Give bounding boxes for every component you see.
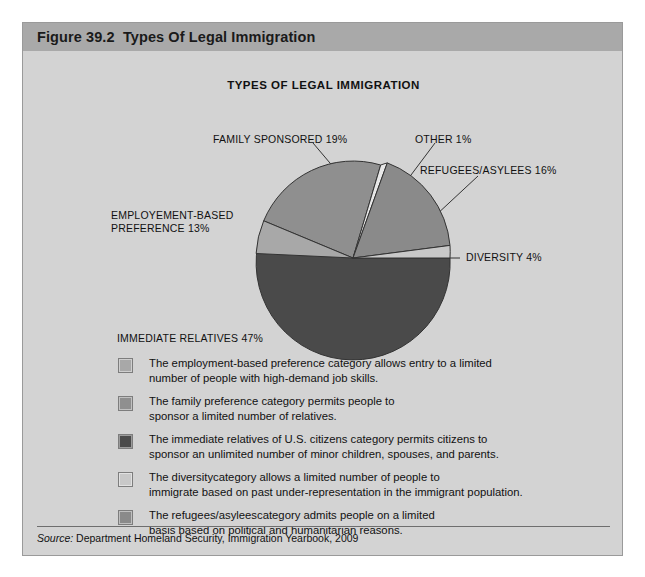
legend-label: The immediate relatives of U.S. citizens… <box>149 432 499 461</box>
callout-family-sponsored: FAMILY SPONSORED 19% <box>213 133 347 146</box>
pie-slices <box>256 161 450 360</box>
callout-diversity: DIVERSITY 4% <box>466 251 542 264</box>
callout-other: OTHER 1% <box>415 133 471 146</box>
figure-panel: Figure 39.2 Types Of Legal Immigration T… <box>22 22 623 556</box>
legend-item: The immediate relatives of U.S. citizens… <box>23 432 624 461</box>
legend-swatch <box>118 472 133 487</box>
source-note: Source: Department Homeland Security, Im… <box>37 532 358 544</box>
source-divider <box>37 526 610 527</box>
callout-employment-based-line2: PREFERENCE 13% <box>111 222 210 235</box>
source-label: Source: <box>37 532 73 544</box>
figure-title: Figure 39.2 Types Of Legal Immigration <box>37 29 315 45</box>
legend-item: The employment-based preference category… <box>23 356 624 385</box>
callout-immediate-relatives: IMMEDIATE RELATIVES 47% <box>117 332 263 345</box>
legend-swatch <box>118 358 133 373</box>
legend-label: The employment-based preference category… <box>149 356 492 385</box>
legend-swatch <box>118 510 133 525</box>
figure-header-bar: Figure 39.2 Types Of Legal Immigration <box>23 23 622 51</box>
callout-refugees-asylees: REFUGEES/ASYLEES 16% <box>420 164 556 177</box>
pie-chart: FAMILY SPONSORED 19% OTHER 1% REFUGEES/A… <box>23 51 624 381</box>
source-text: Department Homeland Security, Immigratio… <box>73 532 358 544</box>
leader-refugees <box>435 176 478 216</box>
legend-swatch <box>118 434 133 449</box>
legend-label: The family preference category permits p… <box>149 394 395 423</box>
legend-swatch <box>118 396 133 411</box>
legend-item: The family preference category permits p… <box>23 394 624 423</box>
legend: The employment-based preference category… <box>23 356 624 546</box>
callout-employment-based-line1: EMPLOYEMENT-BASED <box>111 209 233 222</box>
chart-area: TYPES OF LEGAL IMMIGRATION <box>23 51 624 523</box>
legend-label: The diversitycategory allows a limited n… <box>149 470 523 499</box>
legend-item: The diversitycategory allows a limited n… <box>23 470 624 499</box>
